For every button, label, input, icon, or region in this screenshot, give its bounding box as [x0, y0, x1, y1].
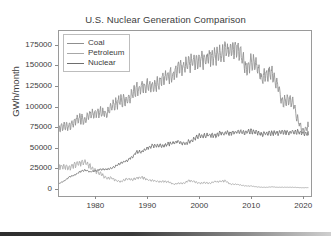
- x-tick-mark: [95, 196, 96, 199]
- legend-label: Nuclear: [88, 58, 116, 68]
- y-tick-mark: [55, 189, 58, 190]
- legend-item-coal[interactable]: Coal: [67, 38, 124, 48]
- y-tick-mark: [55, 148, 58, 149]
- x-tick-label: 2010: [231, 201, 271, 210]
- y-tick-mark: [55, 45, 58, 46]
- y-tick-mark: [55, 127, 58, 128]
- x-tick-mark: [147, 196, 148, 199]
- y-tick-mark: [55, 65, 58, 66]
- y-tick-label: 25000: [0, 163, 52, 172]
- legend-swatch-icon: [67, 53, 84, 54]
- chart-title: U.S. Nuclear Generation Comparison: [0, 14, 331, 25]
- x-tick-label: 2020: [283, 201, 323, 210]
- chart-legend: CoalPetroleumNuclear: [63, 34, 130, 72]
- y-tick-mark: [55, 107, 58, 108]
- y-tick-label: 100000: [0, 102, 52, 111]
- y-tick-label: 50000: [0, 143, 52, 152]
- legend-swatch-icon: [67, 43, 84, 44]
- y-tick-mark: [55, 86, 58, 87]
- y-tick-label: 175000: [0, 40, 52, 49]
- bottom-edge-band: [0, 232, 331, 236]
- y-tick-label: 75000: [0, 122, 52, 131]
- legend-swatch-icon: [67, 63, 84, 64]
- y-tick-label: 0: [0, 184, 52, 193]
- legend-item-nuclear[interactable]: Nuclear: [67, 58, 124, 68]
- legend-label: Coal: [88, 38, 104, 48]
- legend-label: Petroleum: [88, 48, 124, 58]
- y-tick-label: 125000: [0, 81, 52, 90]
- chart-figure: U.S. Nuclear Generation Comparison GWh/m…: [0, 0, 331, 232]
- x-tick-label: 1990: [127, 201, 167, 210]
- x-tick-label: 2000: [179, 201, 219, 210]
- x-tick-mark: [199, 196, 200, 199]
- y-tick-label: 150000: [0, 60, 52, 69]
- series-line-nuclear: [59, 129, 308, 184]
- y-tick-mark: [55, 168, 58, 169]
- x-tick-mark: [303, 196, 304, 199]
- series-line-petroleum: [59, 160, 308, 188]
- x-tick-mark: [251, 196, 252, 199]
- legend-item-petroleum[interactable]: Petroleum: [67, 48, 124, 58]
- x-tick-label: 1980: [75, 201, 115, 210]
